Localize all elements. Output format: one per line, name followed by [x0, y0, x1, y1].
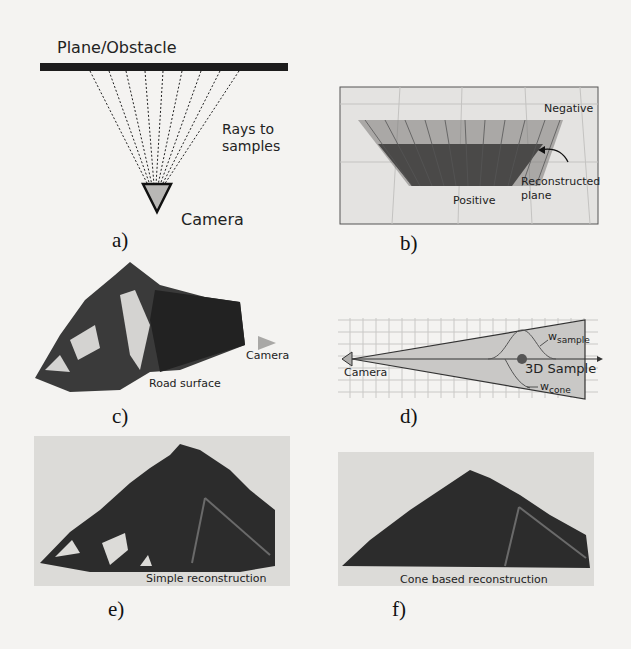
cone-reconstruction-svg	[0, 0, 631, 649]
cone-reconstruction-label: Cone based reconstruction	[400, 573, 548, 586]
caption-f: f)	[392, 597, 406, 622]
panel-f-cone-reconstruction: Cone based reconstruction f)	[0, 0, 631, 649]
